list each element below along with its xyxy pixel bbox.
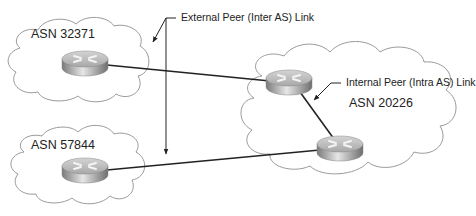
external-callout-arrow-upper [153,18,166,42]
asn-label-32371: ASN 32371 [31,27,95,41]
asn-label-57844: ASN 57844 [31,138,95,152]
internal-peer-callout-label: Internal Peer (Intra AS) Link [346,76,476,88]
router-icon-asn-20226-lower [317,136,363,161]
router-icon-asn-57844 [62,158,108,183]
router-icon-asn-20226-upper [266,70,312,95]
external-peer-callout-label: External Peer (Inter AS) Link [181,11,314,23]
asn-label-20226: ASN 20226 [349,96,413,110]
router-icon-asn-32371 [62,51,108,76]
